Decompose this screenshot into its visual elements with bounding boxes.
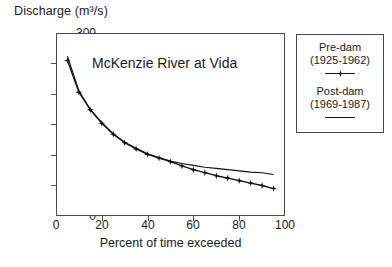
chart-figure: Discharge (m³/s) 300 250 200 150 100 50 … [0, 0, 392, 267]
data-point-marker [270, 185, 277, 192]
x-tick-label-100: 100 [273, 219, 297, 231]
data-point-marker [201, 169, 208, 176]
legend-swatch-pre-dam [299, 68, 381, 79]
x-axis-title: Percent of time exceeded [56, 236, 285, 250]
series-line-1 [67, 56, 273, 174]
data-point-marker [259, 182, 266, 189]
legend-entry-2-period: (1969-1987) [299, 98, 381, 111]
x-tick-label-20: 20 [92, 219, 112, 231]
x-tick-label-40: 40 [138, 219, 158, 231]
legend-entry-2-name: Post-dam [299, 85, 381, 98]
data-point-marker [236, 177, 243, 184]
data-point-marker [247, 180, 254, 187]
x-tick-label-60: 60 [183, 219, 203, 231]
chart-legend: Pre-dam (1925-1962) Post-dam (1969-1987) [296, 34, 384, 133]
y-axis-title: Discharge (m³/s) [14, 4, 108, 18]
data-point-marker [213, 172, 220, 179]
star-marker-icon [337, 70, 344, 77]
legend-entry-1-name: Pre-dam [299, 41, 381, 54]
data-point-marker [190, 166, 197, 173]
x-tick-label-80: 80 [229, 219, 249, 231]
legend-swatch-post-dam [299, 112, 381, 123]
data-point-marker [224, 175, 231, 182]
series-line-0 [67, 60, 273, 188]
legend-entry-1-period: (1925-1962) [299, 54, 381, 67]
x-tick-label-0: 0 [46, 219, 66, 231]
data-series-layer [56, 33, 285, 216]
